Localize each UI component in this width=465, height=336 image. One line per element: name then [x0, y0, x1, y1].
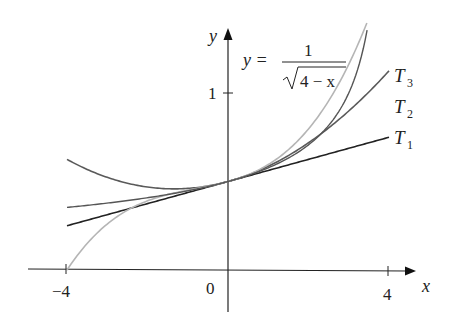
curve-y-1-4-x-	[67, 30, 367, 207]
chart-canvas: −4 0 4 1 x y y = 1 4 − x T 3 T 2 T 1	[0, 0, 465, 336]
label-T1-sub: 1	[407, 138, 413, 152]
label-T3: T 3	[394, 65, 413, 90]
x-axis	[28, 267, 416, 276]
x-tick-label-neg4: −4	[52, 282, 71, 301]
y-axis-arrow-icon	[224, 28, 233, 40]
x-tick-label-0: 0	[206, 279, 215, 298]
function-numerator: 1	[304, 41, 313, 60]
label-T3-sub: 3	[407, 76, 413, 90]
x-axis-label: x	[421, 276, 430, 296]
label-T2-sub: 2	[407, 107, 413, 121]
y-axis-label: y	[207, 26, 217, 46]
label-T1-main: T	[394, 127, 406, 148]
label-T1: T 1	[394, 127, 413, 152]
x-axis-arrow-icon	[405, 267, 416, 276]
curve-t3	[67, 23, 367, 270]
function-label: y = 1 4 − x	[241, 41, 346, 91]
label-T2-main: T	[394, 96, 406, 117]
function-lhs: y =	[241, 50, 268, 70]
label-T3-main: T	[394, 65, 406, 86]
function-denominator: 4 − x	[300, 72, 336, 91]
x-tick-label-4: 4	[383, 285, 392, 304]
y-axis	[224, 28, 233, 312]
y-tick-label-1: 1	[208, 84, 217, 103]
label-T2: T 2	[394, 96, 413, 121]
